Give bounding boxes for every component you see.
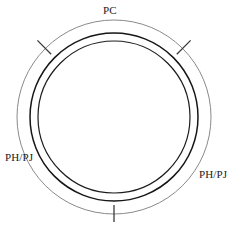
label-pc: PC <box>103 5 117 16</box>
inner-circle <box>38 41 190 193</box>
concentric-circles-svg <box>0 0 239 230</box>
middle-circle <box>30 33 198 201</box>
label-ph-pj-left: PH/PJ <box>5 152 33 163</box>
tick-upper-left-icon <box>37 40 51 54</box>
tick-upper-right-icon <box>177 40 191 54</box>
diagram-canvas: PC PH/PJ PH/PJ <box>0 0 239 230</box>
label-ph-pj-right: PH/PJ <box>199 169 227 180</box>
